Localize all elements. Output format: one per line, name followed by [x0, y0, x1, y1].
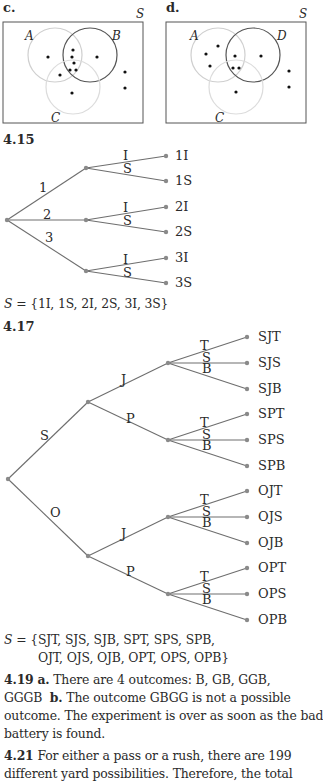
problem-4-15-number: 4.15 — [3, 132, 35, 147]
branch-label-2-S: S — [123, 213, 132, 228]
venn-d-set-c-label: C — [215, 111, 224, 125]
branch-label-SJ-B: B — [202, 361, 212, 376]
venn-c-universe-label: S — [136, 7, 144, 21]
outcome-1I: 1I — [175, 148, 188, 163]
set-c-circle — [46, 60, 100, 114]
outcome-SJT: SJT — [258, 329, 281, 344]
problem-4-19-line4: battery is found. — [4, 725, 316, 743]
outcome-SPS: SPS — [258, 432, 285, 447]
branch-label-OJ-B: B — [202, 515, 212, 530]
outcome-OJT: OJT — [258, 483, 283, 498]
part-b-label: b. — [50, 690, 63, 705]
sample-space-symbol: S — [4, 632, 12, 647]
problem-4-19-number: 4.19 — [4, 672, 34, 687]
venn-c-set-a-label: A — [25, 29, 34, 43]
tree-4-17-nodes — [6, 335, 249, 622]
problem-4-21-number: 4.21 — [4, 748, 34, 763]
problem-4-19-line2: GGGB b. The outcome GBGG is not a possib… — [4, 689, 316, 707]
outcome-OPB: OPB — [258, 612, 287, 627]
sample-space-symbol: S — [4, 296, 12, 311]
set-a-circle — [191, 28, 245, 82]
venn-c — [3, 22, 143, 123]
sample-space-4-17-line1: S = {SJT, SJS, SJB, SPT, SPS, SPB, — [4, 631, 215, 649]
outcome-2S: 2S — [175, 224, 192, 239]
part-b-text: The outcome GBGG is not a possible — [66, 690, 290, 705]
venn-d-set-d-label: D — [277, 29, 287, 43]
outcome-2I: 2I — [175, 199, 188, 214]
outcome-1S: 1S — [175, 173, 192, 188]
outcome-SJS: SJS — [258, 355, 281, 370]
venn-diagrams — [0, 0, 316, 130]
venn-d-set-a-label: A — [190, 29, 199, 43]
problem-4-17-number: 4.17 — [3, 319, 35, 334]
problem-4-21-text1: For either a pass or a rush, there are 1… — [37, 748, 291, 763]
outcome-OJB: OJB — [258, 535, 283, 550]
problem-4-21-line1: 4.21 For either a pass or a rush, there … — [4, 747, 316, 765]
branch-label-O: O — [50, 505, 61, 520]
sample-points — [46, 48, 126, 94]
set-b-circle — [63, 28, 117, 82]
venn-c-set-b-label: B — [112, 29, 121, 43]
tree-4-15-nodes — [5, 154, 168, 285]
part-a-text: There are 4 outcomes: B, GB, GGB, — [53, 672, 270, 687]
sample-space-set-line1: = {SJT, SJS, SJB, SPT, SPS, SPB, — [16, 632, 215, 647]
problem-4-19-line1: 4.19 a. There are 4 outcomes: B, GB, GGB… — [4, 671, 316, 689]
outcome-OJS: OJS — [258, 509, 283, 524]
set-c-circle — [209, 60, 263, 114]
branch-label-SP-B: B — [202, 438, 212, 453]
outcome-SPB: SPB — [258, 458, 285, 473]
branch-label-S-P: P — [126, 411, 135, 426]
branch-label-O-J: J — [121, 526, 126, 541]
branch-label-OP-B: B — [202, 592, 212, 607]
branch-label-2: 2 — [43, 207, 51, 222]
outcome-3S: 3S — [175, 275, 192, 290]
venn-c-set-c-label: C — [51, 111, 60, 125]
outcome-SPT: SPT — [258, 406, 284, 421]
venn-d-universe-label: S — [299, 7, 307, 21]
part-a-cont: GGGB — [4, 690, 42, 705]
outcome-OPS: OPS — [258, 586, 286, 601]
branch-label-O-P: P — [126, 564, 135, 579]
branch-label-3-S: S — [123, 265, 132, 280]
branch-label-S-J: J — [121, 372, 126, 387]
problem-4-19-line3: outcome. The experiment is over as soon … — [4, 707, 316, 725]
sample-points — [204, 44, 290, 93]
sample-space-set: = {1I, 1S, 2I, 2S, 3I, 3S} — [16, 296, 168, 311]
outcome-3I: 3I — [175, 250, 188, 265]
part-a-label: a. — [37, 672, 49, 687]
set-a-circle — [28, 28, 82, 82]
branch-label-S: S — [40, 428, 49, 443]
branch-label-3: 3 — [45, 230, 53, 245]
outcome-SJB: SJB — [258, 381, 282, 396]
outcome-OPT: OPT — [258, 560, 286, 575]
branch-label-1-S: S — [123, 161, 132, 176]
problem-4-21-line2: different yard possibilities. Therefore,… — [4, 765, 316, 783]
sample-space-4-17-line2: OJT, OJS, OJB, OPT, OPS, OPB} — [38, 649, 229, 667]
branch-label-1: 1 — [39, 180, 47, 195]
tree-4-15-branches — [7, 156, 166, 283]
sample-space-4-15: S = {1I, 1S, 2I, 2S, 3I, 3S} — [4, 295, 168, 313]
